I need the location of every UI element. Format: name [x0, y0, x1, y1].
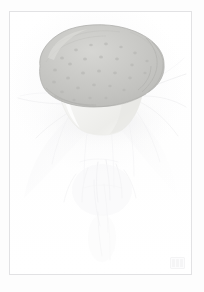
stamp-text — [170, 257, 185, 269]
artwork-plate: Mushroom study watercolour and pencil on… — [0, 0, 204, 292]
artwork-stage — [10, 12, 191, 274]
collection-stamp — [170, 257, 185, 269]
pencil-smudge-lower — [88, 214, 116, 262]
ruled-border-frame — [9, 11, 192, 275]
mushroom-illustration — [10, 12, 191, 274]
pencil-smudge — [72, 164, 132, 216]
